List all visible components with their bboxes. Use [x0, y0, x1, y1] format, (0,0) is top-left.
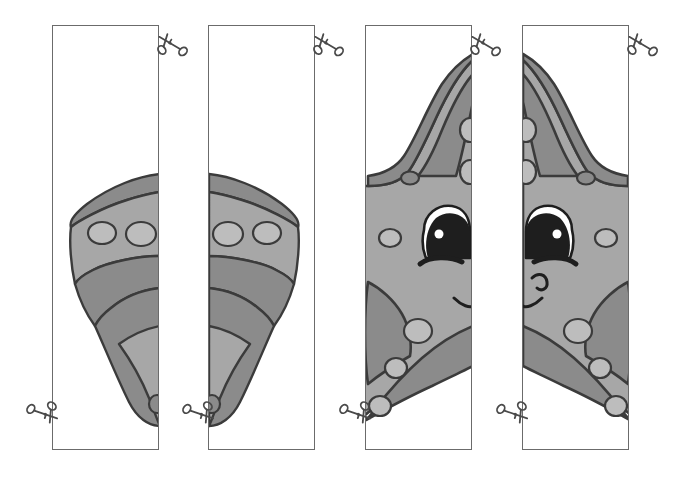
- spot: [253, 222, 281, 244]
- eye-glint: [435, 230, 444, 239]
- spot: [460, 118, 472, 142]
- spot: [605, 396, 627, 416]
- spot: [88, 222, 116, 244]
- strip-panel-3[interactable]: [365, 25, 472, 450]
- strip-panel-4[interactable]: [522, 25, 629, 450]
- spot: [385, 358, 407, 378]
- arm-notch-bump: [577, 172, 595, 185]
- strip-panel-1[interactable]: [52, 25, 159, 450]
- spot: [523, 118, 536, 142]
- spot: [149, 395, 159, 413]
- spot: [523, 160, 536, 184]
- spot: [213, 222, 243, 246]
- spot: [595, 229, 617, 247]
- spot: [460, 160, 472, 184]
- spot: [404, 319, 432, 343]
- spot: [379, 229, 401, 247]
- strip-panel-2[interactable]: [208, 25, 315, 450]
- spot: [564, 319, 592, 343]
- spot: [589, 358, 611, 378]
- arm-notch-bump: [401, 172, 419, 185]
- worksheet-page: [0, 0, 695, 485]
- eye-glint: [553, 230, 562, 239]
- spot: [126, 222, 156, 246]
